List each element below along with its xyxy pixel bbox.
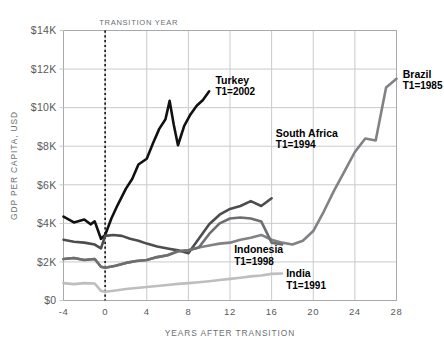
y-axis-tick-label: $2K (37, 256, 57, 268)
chart-container: $0$2K$4K$6K$8K$10K$12K$14K-4048121620242… (0, 0, 444, 342)
y-axis-tick-label: $14K (31, 24, 57, 36)
series-name-india: India (286, 267, 311, 279)
x-axis-tick-label: 16 (266, 306, 278, 317)
y-axis-tick-label: $8K (37, 140, 57, 152)
y-axis-tick-label: $4K (37, 217, 57, 229)
x-axis-tick-label: 12 (224, 306, 236, 317)
transition-year-label: TRANSITION YEAR (99, 18, 178, 27)
x-axis-tick-label: 8 (185, 306, 191, 317)
series-line-india (64, 274, 283, 292)
x-axis-title: YEARS AFTER TRANSITION (165, 328, 295, 338)
series-sublabel-indonesia: T1=1998 (234, 256, 274, 267)
series-label-turkey: TurkeyT1=2002 (215, 74, 255, 98)
y-axis-tick-label: $12K (31, 63, 57, 75)
series-sublabel-turkey: T1=2002 (215, 86, 255, 97)
gdp-per-capita-line-chart: $0$2K$4K$6K$8K$10K$12K$14K-4048121620242… (0, 0, 444, 342)
series-name-indonesia: Indonesia (234, 243, 283, 255)
x-axis-tick-label: 0 (102, 306, 108, 317)
y-axis-tick-label: $10K (31, 101, 57, 113)
series-label-india: IndiaT1=1991 (286, 267, 326, 291)
series-line-turkey (64, 91, 210, 239)
series-sublabel-south-africa: T1=1994 (276, 139, 316, 150)
series-name-brazil: Brazil (403, 68, 432, 80)
series-label-indonesia: IndonesiaT1=1998 (234, 243, 283, 267)
series-label-brazil: BrazilT1=1985 (403, 68, 443, 92)
series-sublabel-india: T1=1991 (286, 280, 326, 291)
x-axis-tick-label: 4 (144, 306, 150, 317)
x-axis-tick-label: 28 (391, 306, 403, 317)
x-axis-tick-label: -4 (59, 306, 69, 317)
series-sublabel-brazil: T1=1985 (403, 80, 443, 91)
x-axis-tick-label: 20 (307, 306, 319, 317)
y-axis-tick-label: $0 (44, 294, 56, 306)
y-axis-title: GDP PER CAPITA, USD (9, 111, 19, 220)
y-axis-tick-label: $6K (37, 179, 57, 191)
x-axis-tick-label: 24 (349, 306, 361, 317)
series-name-turkey: Turkey (215, 74, 249, 86)
series-name-south-africa: South Africa (276, 127, 338, 139)
